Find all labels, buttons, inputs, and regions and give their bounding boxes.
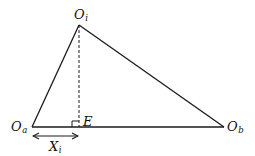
label-foot-e: E bbox=[82, 114, 93, 129]
right-angle-marker bbox=[72, 121, 79, 127]
side-oi-ob bbox=[79, 25, 224, 127]
label-right-ob: Ob bbox=[227, 119, 244, 135]
label-dimension-xi: Xi bbox=[48, 139, 62, 155]
label-left-oa: Oa bbox=[11, 119, 27, 135]
label-apex-oi: Oi bbox=[74, 7, 88, 23]
triangle-diagram: Oi Oa Ob E Xi bbox=[0, 0, 255, 156]
side-oa-oi bbox=[32, 25, 79, 127]
